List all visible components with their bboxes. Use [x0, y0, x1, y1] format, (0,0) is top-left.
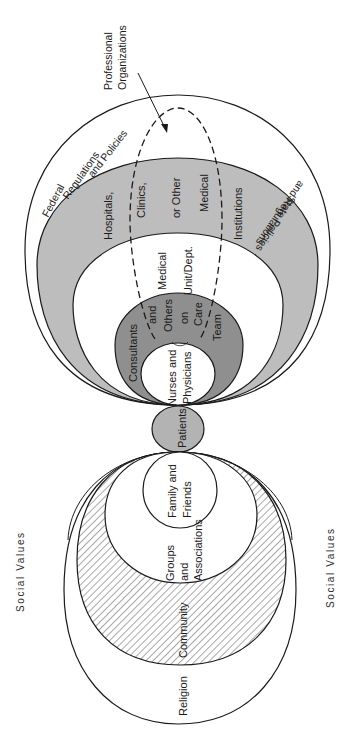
- medical-unit-label: Medical: [156, 252, 168, 290]
- others-label: Others: [162, 298, 174, 332]
- team-label: Team: [211, 314, 223, 341]
- consultants-label: Consultants: [127, 323, 139, 382]
- unit-dept-label: Unit/Dept.: [182, 246, 194, 295]
- professional-organizations-label: Professional Organizations: [102, 25, 128, 90]
- hospitals-label: Hospitals,: [102, 192, 114, 240]
- groups-label: Groups: [164, 544, 176, 581]
- or-other-label: or Other: [170, 177, 182, 218]
- diagram-canvas: Social Values Social Values Professional…: [0, 0, 352, 744]
- community-label: Community: [177, 602, 189, 658]
- associations-label: Associations: [192, 519, 204, 581]
- on-label: on: [178, 312, 190, 324]
- friends-label: Friends: [181, 481, 193, 518]
- nurses-physicians-circle: [141, 343, 215, 405]
- family-label: Family and: [166, 464, 178, 518]
- social-values-right-label: Social Values: [325, 527, 336, 608]
- physicians-label: Physicians: [181, 351, 193, 404]
- family-friends-circle: [143, 452, 217, 528]
- clinics-label: Clinics,: [135, 183, 147, 218]
- religion-label: Religion: [177, 676, 189, 716]
- patients-label: Patients: [176, 408, 188, 448]
- nurses-label: Nurses and: [166, 350, 178, 406]
- and-label: and: [146, 306, 158, 324]
- institutions-label: Institutions: [232, 187, 244, 240]
- groups-and-label: and: [178, 563, 190, 581]
- medical-inst-label: Medical: [198, 174, 210, 212]
- care-label: Care: [192, 302, 204, 326]
- social-values-left-label: Social Values: [15, 531, 26, 612]
